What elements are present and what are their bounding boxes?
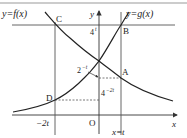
point-A-label: A: [122, 67, 129, 77]
label-2-pow-minus-t: 2 −t: [77, 64, 88, 75]
point-C-label: C: [56, 14, 62, 24]
label-x-eq-t: x=t: [111, 127, 125, 137]
svg-text:4: 4: [90, 28, 94, 37]
y-axis-label: y: [89, 9, 94, 19]
label-minus-2t: −2t: [36, 118, 50, 128]
point-B-label: B: [123, 26, 129, 36]
svg-text:t: t: [95, 26, 97, 32]
label-f: y=f(x): [1, 8, 28, 20]
origin-label: O: [89, 118, 96, 128]
point-D-label: D: [46, 93, 53, 103]
svg-text:4: 4: [101, 89, 105, 98]
svg-text:−2t: −2t: [106, 87, 114, 93]
svg-text:2: 2: [77, 66, 81, 75]
annotation-arrow-2mt: [88, 72, 98, 77]
x-axis-label: x: [171, 119, 176, 129]
curve-g: [13, 12, 129, 112]
label-g: y=g(x): [125, 8, 154, 20]
function-diagram: y=f(x) y=g(x) y x O C B A D 4 t 2 −t 4 −…: [0, 0, 187, 138]
svg-text:−t: −t: [82, 64, 88, 70]
label-4-pow-minus-2t: 4 −2t: [101, 87, 114, 98]
label-4-pow-t: 4 t: [90, 26, 97, 37]
